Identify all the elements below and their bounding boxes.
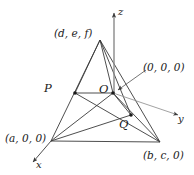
origin-leader-line [118,70,146,90]
label-axis-z: z [118,7,123,17]
label-axis-x: x [36,160,42,170]
label-axis-y: y [178,114,184,124]
point-q-dot [129,113,133,117]
geometry-figure: (d, e, f) (0, 0, 0) (a, 0, 0) (b, c, 0) … [0,0,194,175]
label-origin-coords: (0, 0, 0) [143,62,185,73]
edge-origin-to-x-vertex [51,93,113,141]
point-origin-dot [111,91,115,95]
point-p-dot [73,91,77,95]
label-point-p: P [44,83,52,95]
axis-y-line [113,93,178,115]
label-point-q: Q [119,119,128,131]
edge-apex-to-y-vertex [100,40,160,142]
label-y-vertex-coords: (b, c, 0) [143,150,184,161]
label-apex-coords: (d, e, f) [54,28,92,39]
segment-apex-to-q [100,40,131,115]
label-point-o: O [99,84,108,96]
label-x-vertex-coords: (a, 0, 0) [5,133,46,144]
segment-apex-to-p [75,40,100,93]
edge-base-front [51,141,160,142]
segment-p-to-y-vertex [75,93,160,142]
